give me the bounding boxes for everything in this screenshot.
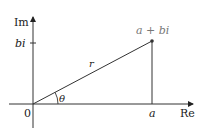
imag-axis-label: Im xyxy=(14,16,29,29)
point-label: a + bi xyxy=(136,24,169,37)
real-axis-label: Re xyxy=(180,107,195,120)
bi-label: bi xyxy=(15,37,26,50)
point-dot xyxy=(150,39,154,43)
radius-label: r xyxy=(89,58,95,69)
complex-plane-diagram: Im bi a + bi r θ 0 a Re xyxy=(0,0,207,136)
radius-line xyxy=(33,41,152,104)
angle-label: θ xyxy=(59,93,65,104)
angle-arc xyxy=(55,92,58,104)
a-label: a xyxy=(149,107,156,120)
origin-label: 0 xyxy=(24,107,31,120)
